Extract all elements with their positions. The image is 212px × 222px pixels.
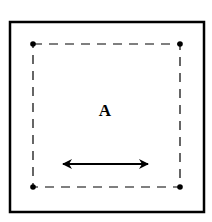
corner-point-top-left xyxy=(30,41,36,47)
corner-point-bottom-left xyxy=(30,184,36,190)
corner-point-bottom-right xyxy=(177,184,183,190)
corner-point-top-right xyxy=(177,41,183,47)
diagram-canvas: A xyxy=(0,0,212,222)
region-label: A xyxy=(99,101,112,120)
